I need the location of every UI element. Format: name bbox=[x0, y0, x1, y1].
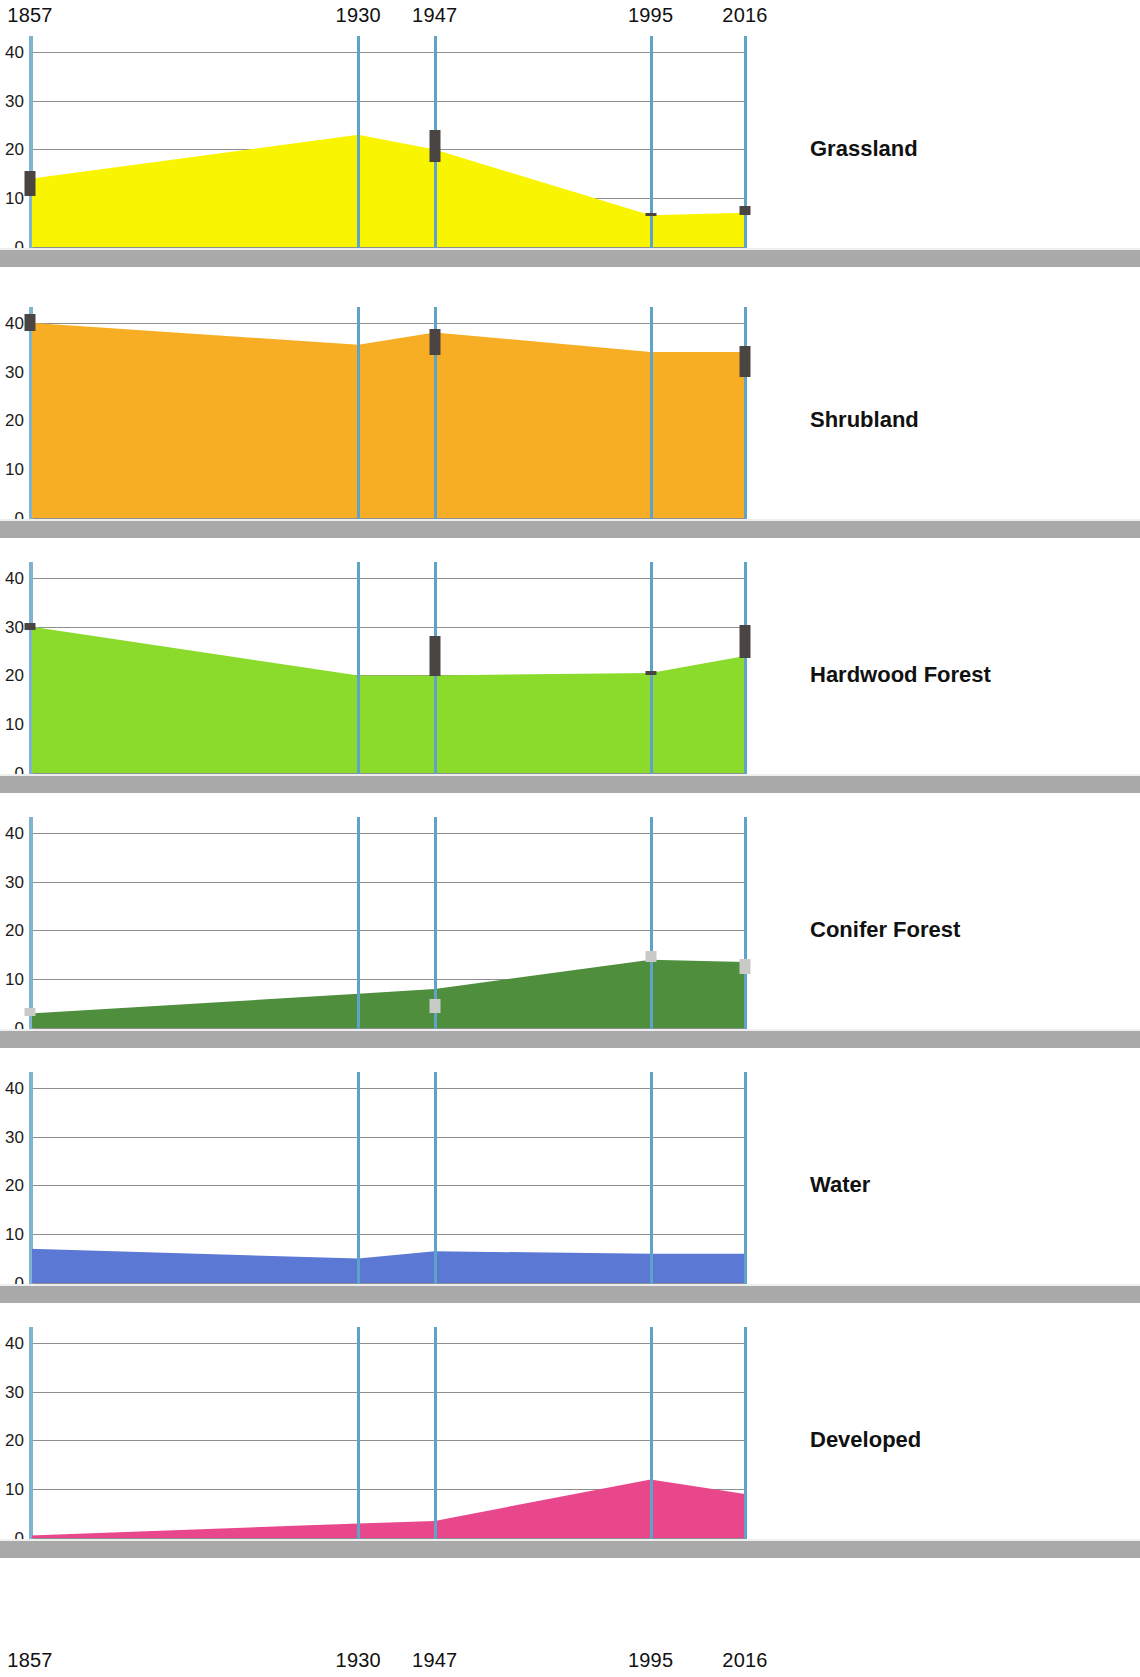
error-bar-2016 bbox=[740, 206, 751, 214]
series-area-conifer-forest bbox=[30, 817, 745, 1032]
top-year-label-2016: 2016 bbox=[722, 4, 767, 27]
plot-area: 010203040 bbox=[30, 562, 745, 793]
y-axis-tick-label: 20 bbox=[5, 667, 24, 684]
chart-panel-shrubland: 010203040Shrubland bbox=[0, 307, 1140, 557]
series-label-grassland: Grassland bbox=[810, 136, 918, 162]
chart-panel-hardwood-forest: 010203040Hardwood Forest bbox=[0, 562, 1140, 812]
y-axis-tick-label: 20 bbox=[5, 141, 24, 158]
y-axis-tick-label: 40 bbox=[5, 1334, 24, 1351]
year-line-1995 bbox=[650, 307, 653, 526]
y-axis-tick-label: 40 bbox=[5, 1079, 24, 1096]
ground-strip bbox=[0, 1031, 1140, 1048]
series-area-grassland bbox=[30, 36, 745, 251]
error-bar-2016 bbox=[740, 346, 751, 378]
year-line-1930 bbox=[357, 817, 360, 1036]
series-label-developed: Developed bbox=[810, 1427, 921, 1453]
y-axis-tick-label: 40 bbox=[5, 569, 24, 586]
series-label-hardwood-forest: Hardwood Forest bbox=[810, 662, 991, 688]
year-line-1857 bbox=[29, 36, 32, 255]
bottom-year-label-2016: 2016 bbox=[722, 1649, 767, 1672]
year-line-1930 bbox=[357, 307, 360, 526]
y-axis-tick-label: 40 bbox=[5, 43, 24, 60]
y-axis-tick-label: 30 bbox=[5, 363, 24, 380]
error-bar-1857 bbox=[25, 314, 36, 331]
y-axis-tick-label: 10 bbox=[5, 716, 24, 733]
year-line-1995 bbox=[650, 817, 653, 1036]
y-axis-tick-label: 20 bbox=[5, 1432, 24, 1449]
y-axis-tick-label: 30 bbox=[5, 1383, 24, 1400]
ground-strip bbox=[0, 1541, 1140, 1558]
y-axis-tick-label: 40 bbox=[5, 824, 24, 841]
plot-area: 010203040 bbox=[30, 36, 745, 267]
chart-panel-water: 010203040Water bbox=[0, 1072, 1140, 1322]
year-line-1995 bbox=[650, 1327, 653, 1546]
series-label-water: Water bbox=[810, 1172, 870, 1198]
year-line-1857 bbox=[29, 562, 32, 781]
year-line-2016 bbox=[744, 1327, 747, 1546]
ground-strip bbox=[0, 776, 1140, 793]
y-axis-tick-label: 20 bbox=[5, 412, 24, 429]
top-year-label-1947: 1947 bbox=[412, 4, 457, 27]
y-axis-tick-label: 10 bbox=[5, 461, 24, 478]
year-line-2016 bbox=[744, 36, 747, 255]
series-area-developed bbox=[30, 1327, 745, 1542]
bottom-year-axis: 18571930194719952016 bbox=[0, 1645, 1140, 1677]
y-axis-tick-label: 30 bbox=[5, 618, 24, 635]
bottom-year-label-1857: 1857 bbox=[7, 1649, 52, 1672]
error-bar-1947 bbox=[429, 636, 440, 676]
y-axis-tick-label: 10 bbox=[5, 971, 24, 988]
error-bar-1947 bbox=[429, 329, 440, 356]
plot-area: 010203040 bbox=[30, 1327, 745, 1558]
error-bar-1995 bbox=[645, 951, 656, 961]
error-bar-2016 bbox=[740, 959, 751, 974]
ground-strip bbox=[0, 1286, 1140, 1303]
year-line-1857 bbox=[29, 1072, 32, 1291]
series-label-shrubland: Shrubland bbox=[810, 407, 919, 433]
y-axis-tick-label: 10 bbox=[5, 1481, 24, 1498]
plot-area: 010203040 bbox=[30, 1072, 745, 1303]
year-line-1995 bbox=[650, 1072, 653, 1291]
ground-strip bbox=[0, 250, 1140, 267]
bottom-year-label-1947: 1947 bbox=[412, 1649, 457, 1672]
series-area-hardwood-forest bbox=[30, 562, 745, 777]
year-line-1995 bbox=[650, 36, 653, 255]
error-bar-2016 bbox=[740, 625, 751, 658]
top-year-axis: 18571930194719952016 bbox=[0, 0, 1140, 30]
error-bar-1947 bbox=[429, 130, 440, 162]
y-axis-tick-label: 30 bbox=[5, 873, 24, 890]
error-bar-1995 bbox=[645, 671, 656, 676]
bottom-year-label-1930: 1930 bbox=[336, 1649, 381, 1672]
chart-panel-grassland: 010203040Grassland bbox=[0, 36, 1140, 286]
year-line-1857 bbox=[29, 307, 32, 526]
year-line-2016 bbox=[744, 817, 747, 1036]
year-line-1930 bbox=[357, 562, 360, 781]
plot-area: 010203040 bbox=[30, 307, 745, 538]
year-line-2016 bbox=[744, 562, 747, 781]
series-area-shrubland bbox=[30, 307, 745, 522]
ground-strip bbox=[0, 521, 1140, 538]
top-year-label-1930: 1930 bbox=[336, 4, 381, 27]
series-label-conifer-forest: Conifer Forest bbox=[810, 917, 960, 943]
year-line-1930 bbox=[357, 36, 360, 255]
year-line-1930 bbox=[357, 1327, 360, 1546]
y-axis-tick-label: 10 bbox=[5, 190, 24, 207]
series-area-water bbox=[30, 1072, 745, 1287]
y-axis-tick-label: 10 bbox=[5, 1226, 24, 1243]
year-line-1930 bbox=[357, 1072, 360, 1291]
error-bar-1857 bbox=[25, 623, 36, 630]
error-bar-1857 bbox=[25, 171, 36, 195]
chart-panel-conifer-forest: 010203040Conifer Forest bbox=[0, 817, 1140, 1067]
y-axis-tick-label: 20 bbox=[5, 922, 24, 939]
top-year-label-1857: 1857 bbox=[7, 4, 52, 27]
year-line-2016 bbox=[744, 1072, 747, 1291]
year-line-1857 bbox=[29, 817, 32, 1036]
year-line-1857 bbox=[29, 1327, 32, 1546]
y-axis-tick-label: 20 bbox=[5, 1177, 24, 1194]
top-year-label-1995: 1995 bbox=[628, 4, 673, 27]
error-bar-1857 bbox=[25, 1008, 36, 1016]
bottom-year-label-1995: 1995 bbox=[628, 1649, 673, 1672]
plot-area: 010203040 bbox=[30, 817, 745, 1048]
y-axis-tick-label: 30 bbox=[5, 1128, 24, 1145]
error-bar-1947 bbox=[429, 999, 440, 1014]
year-line-1947 bbox=[434, 1072, 437, 1291]
